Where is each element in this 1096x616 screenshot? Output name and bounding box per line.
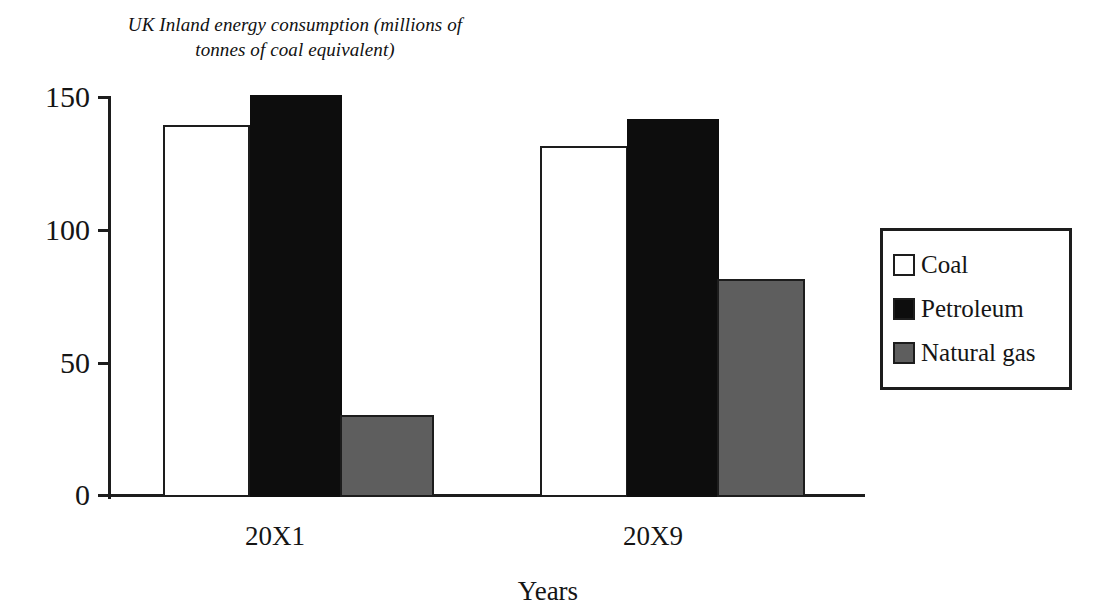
- legend-item-natural-gas[interactable]: Natural gas: [893, 331, 1059, 375]
- legend-label-petroleum: Petroleum: [921, 295, 1024, 323]
- chart-title-line-1: UK Inland energy consumption (millions o…: [95, 12, 495, 37]
- legend-item-coal[interactable]: Coal: [893, 243, 1059, 287]
- y-tick-label-50: 50: [28, 348, 90, 378]
- legend-label-natural-gas: Natural gas: [921, 339, 1036, 367]
- x-axis-title-text: Years: [518, 576, 578, 606]
- bar-20X9-natural-gas: [717, 279, 805, 497]
- legend-swatch-petroleum-icon: [893, 298, 915, 320]
- chart-legend: Coal Petroleum Natural gas: [880, 228, 1072, 390]
- y-tick-100: [98, 229, 109, 232]
- chart-title: UK Inland energy consumption (millions o…: [95, 12, 495, 62]
- bar-20X9-petroleum: [627, 119, 719, 497]
- bar-20X1-coal: [163, 125, 250, 497]
- bar-20X1-petroleum: [250, 95, 342, 497]
- chart-title-line-2: tonnes of coal equivalent): [95, 37, 495, 62]
- bar-20X1-natural-gas: [340, 415, 434, 497]
- y-tick-0: [98, 494, 109, 497]
- legend-item-petroleum[interactable]: Petroleum: [893, 287, 1059, 331]
- y-tick-label-0: 0: [28, 480, 90, 510]
- legend-swatch-natural-gas-icon: [893, 342, 915, 364]
- x-category-label-20X9: 20X9: [578, 521, 728, 551]
- legend-swatch-coal-icon: [893, 254, 915, 276]
- y-tick-label-150: 150: [28, 82, 90, 112]
- y-tick-50: [98, 362, 109, 365]
- legend-label-coal: Coal: [921, 251, 968, 279]
- plot-area: [110, 98, 865, 497]
- y-tick-label-100: 100: [28, 215, 90, 245]
- bar-chart: UK Inland energy consumption (millions o…: [0, 0, 1096, 616]
- x-axis-title: Years: [0, 576, 1096, 607]
- x-category-label-20X1: 20X1: [200, 521, 350, 551]
- bar-20X9-coal: [540, 146, 628, 497]
- y-tick-150: [98, 96, 109, 99]
